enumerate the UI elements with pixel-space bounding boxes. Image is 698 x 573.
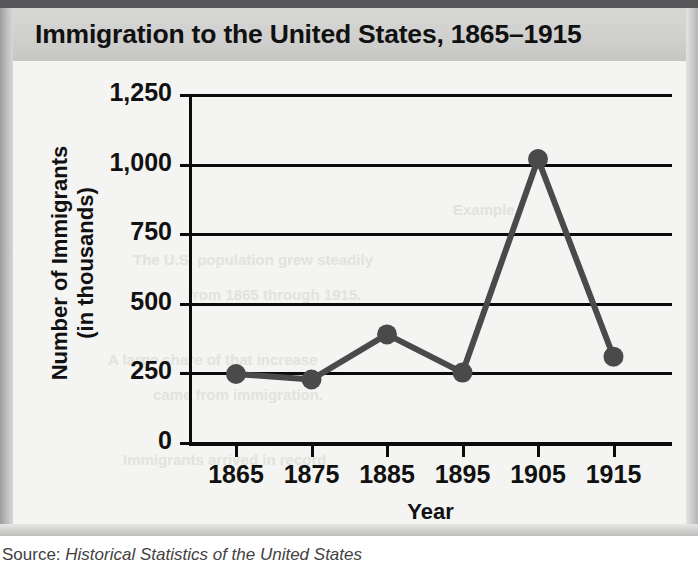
source-title: Historical Statistics of the United Stat… [65, 545, 362, 564]
figure-frame: Immigration to the United States, 1865–1… [0, 0, 698, 536]
data-point-marker [302, 370, 322, 390]
right-edge-shadow [686, 8, 698, 536]
series-line [236, 159, 614, 379]
data-point-marker [528, 149, 548, 169]
title-band: Immigration to the United States, 1865–1… [13, 8, 686, 61]
source-prefix: Source: [2, 545, 65, 564]
top-bar [0, 0, 698, 8]
data-point-marker [226, 364, 246, 384]
plot-canvas: ExampleThe U.S. population grew steadily… [13, 61, 686, 524]
page-title: Immigration to the United States, 1865–1… [35, 19, 582, 50]
data-point-marker [604, 347, 624, 367]
data-point-marker [453, 363, 473, 383]
data-point-marker [377, 324, 397, 344]
chart-page: Immigration to the United States, 1865–1… [0, 0, 698, 573]
data-series [13, 61, 686, 524]
bottom-edge-shadow [0, 524, 698, 536]
source-note: Source: Historical Statistics of the Uni… [2, 545, 362, 565]
left-edge-shadow [0, 8, 13, 536]
